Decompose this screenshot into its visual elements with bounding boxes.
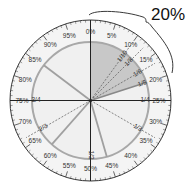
percent-label-60: 60% xyxy=(44,152,57,159)
callout-label: 20% xyxy=(151,5,185,24)
percent-label-5: 5% xyxy=(107,32,117,39)
percent-label-90: 90% xyxy=(44,41,57,48)
percent-label-45: 45% xyxy=(105,162,118,169)
fraction-label-1-2: 1/2 xyxy=(88,150,95,159)
percent-label-65: 65% xyxy=(29,137,42,144)
percent-label-55: 55% xyxy=(63,162,76,169)
percent-label-20: 20% xyxy=(149,76,162,83)
percent-label-80: 80% xyxy=(19,76,32,83)
percent-label-35: 35% xyxy=(139,137,152,144)
percent-label-40: 40% xyxy=(124,152,137,159)
center-point xyxy=(89,99,92,102)
percent-label-30: 30% xyxy=(149,118,162,125)
percent-circle-svg: 0%5%10%15%20%25%30%35%40%45%50%55%60%65%… xyxy=(0,0,191,195)
fraction-label-1-4: 1/4 xyxy=(140,96,149,103)
percent-label-70: 70% xyxy=(19,118,32,125)
fraction-label-3-4: 3/4 xyxy=(31,96,40,103)
percent-label-85: 85% xyxy=(29,56,42,63)
percent-label-15: 15% xyxy=(139,56,152,63)
percent-circle-diagram: 0%5%10%15%20%25%30%35%40%45%50%55%60%65%… xyxy=(0,0,191,195)
percent-label-95: 95% xyxy=(63,32,76,39)
percent-label-10: 10% xyxy=(124,41,137,48)
